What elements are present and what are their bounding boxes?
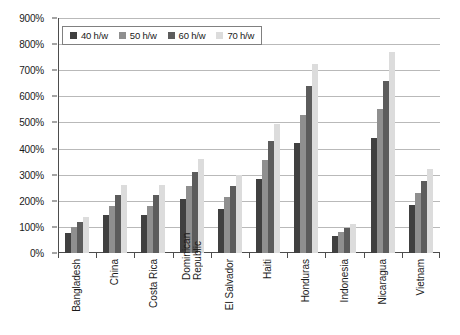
legend-swatch-icon [70, 32, 77, 39]
y-axis-tick-label: 700% [19, 65, 44, 76]
y-axis-tick-mark [52, 174, 57, 175]
y-axis-tick-label: 400% [19, 143, 44, 154]
x-axis-tick-label: Vietnam [416, 259, 427, 296]
legend-item: 70 h/w [216, 30, 254, 41]
y-axis-tick-label: 900% [19, 13, 44, 24]
y-axis-tick-label: 200% [19, 195, 44, 206]
x-axis-tick-label: Haiti [263, 259, 274, 279]
x-axis-tick-label: Nicaragua [378, 259, 389, 305]
bar-group [325, 18, 363, 253]
x-axis-tick-mark [249, 253, 250, 258]
x-axis: BangladeshChinaCosta RicaDominican Repub… [58, 259, 440, 333]
bar-group [402, 18, 440, 253]
bar-group [96, 18, 134, 253]
y-axis-tick-mark [52, 122, 57, 123]
y-axis-tick-label: 600% [19, 91, 44, 102]
bar [159, 185, 165, 253]
y-axis-tick-label: 100% [19, 221, 44, 232]
x-axis-tick-mark [58, 253, 59, 258]
x-axis-tick-mark [439, 253, 440, 258]
x-axis-tick-mark [325, 253, 326, 258]
x-axis-tick-label: Honduras [301, 259, 312, 302]
x-axis-tick-mark [364, 253, 365, 258]
legend-item: 40 h/w [70, 30, 108, 41]
bars-layer [58, 18, 440, 253]
y-axis-tick-label: 800% [19, 39, 44, 50]
x-axis-tick-label: Costa Rica [149, 259, 160, 308]
x-axis-tick-label: China [110, 259, 121, 285]
x-axis-tick-label: El Salvador [225, 259, 236, 310]
y-axis-tick-label: 500% [19, 117, 44, 128]
legend-label: 40 h/w [81, 30, 108, 41]
x-axis-ticks [58, 253, 440, 258]
chart-legend: 40 h/w50 h/w60 h/w70 h/w [62, 26, 262, 45]
legend-swatch-icon [216, 32, 223, 39]
y-axis-tick-label: 0% [30, 248, 44, 259]
y-axis-tick-mark [52, 96, 57, 97]
x-axis-tick-label: Indonesia [340, 259, 351, 302]
x-axis-tick-mark [134, 253, 135, 258]
y-axis-tick-mark [52, 44, 57, 45]
bar-group [249, 18, 287, 253]
bar [312, 64, 318, 253]
legend-swatch-icon [168, 32, 175, 39]
bar [236, 175, 242, 253]
legend-item: 50 h/w [119, 30, 157, 41]
y-axis-tick-label: 300% [19, 169, 44, 180]
x-axis-tick-label: Dominican Republic [182, 259, 254, 280]
y-axis-tick-mark [52, 148, 57, 149]
legend-item: 60 h/w [168, 30, 206, 41]
bar [198, 159, 204, 253]
legend-label: 70 h/w [227, 30, 254, 41]
x-axis-tick-mark [96, 253, 97, 258]
y-axis-tick-mark [52, 253, 57, 254]
x-axis-tick-mark [287, 253, 288, 258]
y-axis: 0%100%200%300%400%500%600%700%800%900% [0, 18, 52, 253]
x-axis-tick-label: Bangladesh [72, 259, 83, 312]
bar [427, 169, 433, 253]
legend-label: 50 h/w [130, 30, 157, 41]
x-axis-tick-mark [211, 253, 212, 258]
y-axis-tick-mark [52, 70, 57, 71]
x-axis-tick-mark [173, 253, 174, 258]
y-axis-tick-mark [52, 200, 57, 201]
bar [83, 217, 89, 253]
bar [274, 124, 280, 253]
bar-group [287, 18, 325, 253]
bar-group [211, 18, 249, 253]
bar [121, 185, 127, 253]
bar [350, 224, 356, 253]
bar [389, 52, 395, 253]
legend-label: 60 h/w [179, 30, 206, 41]
bar-group [173, 18, 211, 253]
y-axis-tick-mark [52, 226, 57, 227]
bar-group [364, 18, 402, 253]
x-axis-tick-mark [402, 253, 403, 258]
bar-group [134, 18, 172, 253]
legend-swatch-icon [119, 32, 126, 39]
bar-group [58, 18, 96, 253]
bar-chart: 0%100%200%300%400%500%600%700%800%900% B… [0, 0, 460, 335]
y-axis-tick-mark [52, 18, 57, 19]
